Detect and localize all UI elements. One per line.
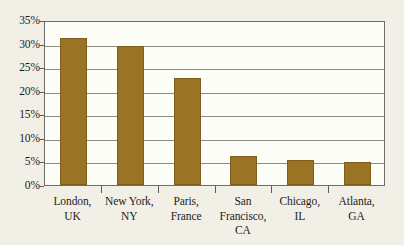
x-axis-category-label: New York,NY	[101, 194, 158, 223]
y-axis-tick-label: 5%	[2, 157, 40, 169]
x-axis-category-label: Paris,France	[158, 194, 215, 223]
bar	[287, 160, 314, 185]
category-tick-marks	[44, 186, 385, 194]
x-axis-category-label-line: UK	[44, 209, 101, 224]
x-axis-category-label: SanFrancisco,CA	[215, 194, 272, 238]
x-axis-tick-mark	[101, 186, 102, 193]
x-axis-category-label: London,UK	[44, 194, 101, 223]
bar	[117, 46, 144, 185]
plot-area	[44, 21, 385, 186]
x-axis-category-label-line: Francisco,	[215, 209, 272, 224]
x-axis-tick-mark	[158, 186, 159, 193]
x-axis-labels: London,UKNew York,NYParis,FranceSanFranc…	[44, 194, 385, 245]
bar	[174, 78, 201, 185]
x-axis-category-label: Chicago,IL	[271, 194, 328, 223]
x-axis-category-label-line: Chicago,	[271, 194, 328, 209]
x-axis-category-label-line: France	[158, 209, 215, 224]
x-axis-category-label-line: London,	[44, 194, 101, 209]
y-axis-tick-label: 15%	[2, 110, 40, 122]
x-axis-category-label-line: GA	[328, 209, 385, 224]
x-axis-tick-mark	[328, 186, 329, 193]
bar	[344, 162, 371, 185]
bar	[60, 38, 87, 185]
x-axis-category-label-line: NY	[101, 209, 158, 224]
x-axis-category-label-line: San	[215, 194, 272, 209]
x-axis-tick-mark	[271, 186, 272, 193]
x-axis-category-label-line: CA	[215, 223, 272, 238]
y-axis-tick-label: 25%	[2, 62, 40, 74]
y-axis-tick-label: 0%	[2, 180, 40, 192]
y-axis-tick-label: 30%	[2, 39, 40, 51]
y-axis-tick-label: 20%	[2, 86, 40, 98]
x-axis-category-label-line: Atlanta,	[328, 194, 385, 209]
x-axis-tick-mark	[215, 186, 216, 193]
y-axis-tick-label: 10%	[2, 133, 40, 145]
y-axis: 0%5%10%15%20%25%30%35%	[0, 0, 40, 245]
x-axis-category-label-line: IL	[271, 209, 328, 224]
y-axis-tick-label: 35%	[2, 15, 40, 27]
x-axis-category-label-line: Paris,	[158, 194, 215, 209]
bar	[230, 156, 257, 185]
x-axis-category-label: Atlanta,GA	[328, 194, 385, 223]
x-axis-category-label-line: New York,	[101, 194, 158, 209]
bar-chart: 0%5%10%15%20%25%30%35% London,UKNew York…	[0, 0, 404, 245]
bars-layer	[45, 22, 384, 185]
